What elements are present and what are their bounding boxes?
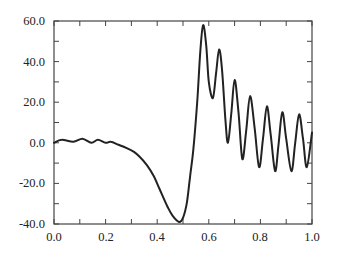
y-tick-label: 40.0: [23, 55, 45, 69]
x-tick-label: 1.0: [304, 230, 320, 244]
y-tick-label: 0.0: [29, 136, 45, 150]
data-line: [54, 25, 312, 222]
plot-frame: [54, 21, 312, 224]
y-tick-label: 20.0: [23, 95, 45, 109]
x-tick-label: 0.8: [252, 230, 268, 244]
y-tick-label: 60.0: [23, 14, 45, 28]
y-axis-tick-labels: 60.0 40.0 20.0 0.0 -20.0 -40.0: [19, 14, 45, 231]
x-axis-tick-labels: 0.0 0.2 0.4 0.6 0.8 1.0: [46, 230, 320, 244]
y-tick-label: -20.0: [19, 176, 45, 190]
axis-ticks: [54, 21, 312, 224]
x-tick-label: 0.0: [46, 230, 62, 244]
x-tick-label: 0.4: [149, 230, 165, 244]
y-tick-label: -40.0: [19, 217, 45, 231]
line-chart: 60.0 40.0 20.0 0.0 -20.0 -40.0 0.0 0.2 0…: [0, 0, 337, 256]
x-tick-label: 0.2: [98, 230, 114, 244]
x-tick-label: 0.6: [201, 230, 217, 244]
